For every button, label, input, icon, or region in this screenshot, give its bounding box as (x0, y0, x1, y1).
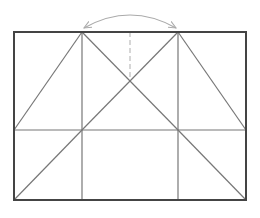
diagonal-line-5 (14, 130, 82, 200)
diagonal-line-1 (14, 32, 82, 130)
diagram-canvas (0, 0, 260, 218)
diagonal-line-4 (178, 32, 246, 130)
fold-arrow-arc (84, 15, 176, 28)
diagonal-line-6 (178, 130, 246, 200)
fold-diagram (0, 0, 260, 218)
